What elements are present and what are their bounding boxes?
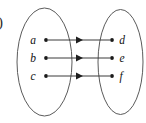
node-label-b: b: [30, 52, 36, 64]
node-dot: [44, 38, 48, 42]
codomain-element-f: f: [110, 70, 124, 83]
figure-label-paren: ): [0, 14, 3, 31]
domain-element-a: a: [30, 34, 48, 46]
domain-element-c: c: [30, 70, 47, 82]
arrowhead-icon: [76, 73, 83, 80]
node-dot: [110, 74, 114, 78]
codomain-element-d: d: [110, 34, 125, 46]
codomain-element-e: e: [110, 52, 124, 64]
arrowhead-icon: [76, 37, 83, 44]
mapping-arrow-b-to-e: [48, 55, 110, 62]
domain-element-b: b: [30, 52, 48, 64]
domain-ellipse: [17, 8, 72, 116]
node-label-e: e: [119, 52, 124, 64]
node-dot: [110, 56, 114, 60]
arrowhead-icon: [76, 55, 83, 62]
mapping-diagram-canvas: ) a b c d: [0, 0, 146, 123]
node-label-a: a: [30, 34, 36, 46]
node-dot: [44, 74, 48, 78]
mapping-arrow-c-to-f: [48, 73, 110, 80]
function-mapping-figure: ) a b c d: [0, 0, 146, 123]
node-dot: [110, 38, 114, 42]
node-label-d: d: [119, 34, 125, 46]
node-label-c: c: [30, 70, 35, 82]
node-dot: [44, 56, 48, 60]
node-label-f: f: [119, 70, 124, 83]
